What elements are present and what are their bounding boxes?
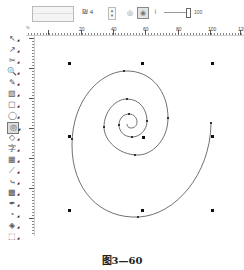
selection-handles[interactable]: [68, 62, 214, 212]
spiral-nodes: [71, 70, 212, 218]
ruler-tick: [32, 194, 34, 195]
expansion-factor-slider[interactable]: [164, 12, 188, 13]
connector-tool-button[interactable]: ⤷◢: [7, 177, 17, 187]
ruler-tick: [32, 44, 34, 45]
ruler-tick: [32, 146, 34, 147]
ruler-tick: [32, 41, 34, 42]
text-tool-button[interactable]: 字◢: [7, 144, 17, 154]
ruler-tick: [58, 33, 59, 35]
ruler-tick: [32, 185, 34, 186]
ruler-tick: [91, 33, 92, 35]
x-position-row[interactable]: [33, 7, 73, 14]
fill-tool-button[interactable]: ◈◢: [7, 221, 17, 231]
ruler-tick: [32, 230, 34, 231]
ruler-tick: [67, 33, 68, 35]
ruler-tick: [166, 33, 167, 35]
ruler-tick: [32, 182, 34, 183]
freehand-tool-button[interactable]: ✎◢: [7, 78, 17, 88]
pick-tool-button[interactable]: ↖◢: [7, 34, 17, 44]
ruler-tick: [160, 33, 161, 35]
toolbox: ↖◢↗◢✂◢🔍◢✎◢▨◢▢◢◯◢◎◢◇◢字◢▦◢⟋◢⤷◢▩◢✒◢◔◢◈◢⬚◢: [4, 34, 20, 244]
ruler-tick: [28, 33, 29, 35]
table-tool-button[interactable]: ▦◢: [7, 155, 17, 165]
ruler-tick: [115, 33, 116, 35]
outline-tool-button[interactable]: ◔◢: [7, 210, 17, 220]
ruler-tick: [32, 77, 34, 78]
crop-tool-icon: ✂: [9, 56, 16, 65]
logarithmic-spiral-button[interactable]: ◉: [137, 7, 149, 19]
ruler-tick: [32, 83, 34, 84]
text-tool-icon: 字: [8, 144, 16, 153]
shape-tool-button[interactable]: ↗◢: [7, 45, 17, 55]
flyout-indicator-icon: ◢: [17, 57, 19, 67]
interactive-blend-tool-button[interactable]: ⬚◢: [7, 232, 17, 242]
ruler-tick: [32, 191, 34, 192]
ruler-label: 60: [143, 26, 149, 32]
ruler-tick: [142, 33, 143, 35]
ruler-major-tick: [48, 30, 49, 35]
flyout-indicator-icon: ◢: [17, 211, 19, 221]
ruler-tick: [154, 33, 155, 35]
ruler-tick: [31, 33, 32, 35]
crop-tool-button[interactable]: ✂◢: [7, 56, 17, 66]
flyout-indicator-icon: ◢: [17, 233, 19, 243]
ruler-tick: [32, 113, 34, 114]
ruler-tick: [29, 218, 34, 219]
ruler-tick: [121, 33, 122, 35]
ruler-tick: [223, 33, 224, 35]
vertical-ruler[interactable]: [27, 36, 35, 236]
object-position-fields[interactable]: [32, 6, 74, 22]
drawing-canvas[interactable]: [40, 40, 240, 240]
flyout-indicator-icon: ◢: [17, 134, 19, 144]
ruler-tick: [32, 143, 34, 144]
ruler-tick: [151, 33, 152, 35]
horizontal-ruler[interactable]: 20406080100120: [26, 26, 244, 36]
ruler-tick: [61, 33, 62, 35]
ruler-tick: [238, 33, 239, 35]
ruler-tick: [32, 56, 34, 57]
rectangle-tool-icon: ▢: [8, 100, 16, 109]
spiral-turns-field[interactable]: ₪ 4: [82, 8, 93, 15]
ruler-tick: [32, 170, 34, 171]
spiral-path[interactable]: [72, 71, 211, 217]
spiral-turns-spinner[interactable]: ▲▼: [108, 7, 116, 20]
table-tool-icon: ▦: [8, 155, 16, 164]
symmetrical-spiral-icon: ◎: [127, 9, 133, 16]
ruler-tick: [32, 161, 34, 162]
ruler-tick: [43, 33, 44, 35]
ruler-tick: [29, 158, 34, 159]
ruler-tick: [103, 33, 104, 35]
y-position-row[interactable]: [33, 14, 73, 20]
ruler-tick: [32, 125, 34, 126]
ruler-tick: [226, 33, 227, 35]
property-bar: ₪ 4 ▲▼ ◎ ◉ ⌇ 100: [14, 6, 244, 20]
basic-shapes-tool-icon: ◇: [9, 133, 15, 142]
ruler-tick: [229, 33, 230, 35]
ruler-tick: [136, 33, 137, 35]
basic-shapes-tool-button[interactable]: ◇◢: [7, 133, 17, 143]
symmetrical-spiral-button[interactable]: ◎: [124, 7, 135, 18]
ruler-tick: [220, 33, 221, 35]
expansion-factor-slider-thumb[interactable]: [186, 8, 191, 18]
ruler-tick: [32, 233, 34, 234]
ruler-tick: [32, 212, 34, 213]
ruler-tick: [37, 33, 38, 35]
dimension-tool-button[interactable]: ⟋◢: [7, 166, 17, 176]
rectangle-tool-button[interactable]: ▢◢: [7, 100, 17, 110]
ruler-tick: [32, 62, 34, 63]
spiral-object[interactable]: [40, 40, 240, 240]
expansion-factor-value[interactable]: 100: [194, 9, 202, 15]
ruler-tick: [235, 33, 236, 35]
ruler-tick: [32, 149, 34, 150]
zoom-tool-button[interactable]: 🔍◢: [7, 67, 17, 77]
freehand-tool-icon: ✎: [9, 78, 16, 87]
ruler-tick: [97, 33, 98, 35]
eyedropper-tool-button[interactable]: ✒◢: [7, 199, 17, 209]
ruler-tick: [32, 167, 34, 168]
interactive-fill-tool-button[interactable]: ▩◢: [7, 188, 17, 198]
ruler-tick: [32, 122, 34, 123]
smart-fill-tool-button[interactable]: ▨◢: [7, 89, 17, 99]
ruler-tick: [32, 209, 34, 210]
interactive-fill-tool-icon: ▩: [8, 188, 16, 197]
ellipse-tool-button[interactable]: ◯◢: [7, 111, 17, 121]
